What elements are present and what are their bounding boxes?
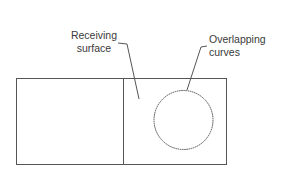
receiving-surface-line1: Receiving (68, 29, 120, 42)
overlapping-curves-circle (154, 91, 213, 150)
outer-rectangle (17, 79, 227, 165)
overlapping-curves-line2: curves (209, 46, 266, 59)
receiving-surface-leader (118, 43, 139, 99)
overlapping-curves-leader (187, 46, 207, 90)
diagram-canvas (0, 0, 284, 189)
overlapping-curves-label: Overlapping curves (209, 33, 266, 59)
receiving-surface-label: Receiving surface (68, 29, 120, 55)
overlapping-curves-line1: Overlapping (209, 33, 266, 46)
receiving-surface-line2: surface (68, 42, 120, 55)
